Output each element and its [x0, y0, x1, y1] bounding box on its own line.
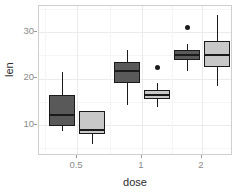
boxplot-series-layer [39, 6, 231, 154]
x-tick-label-0-5: 0.5 [56, 159, 96, 170]
median-line [204, 54, 230, 56]
x-tick-mark-0-5 [76, 155, 77, 158]
x-tick-mark-2 [201, 155, 202, 158]
boxplot-figure: len 30 20 10 0.5 1 2 dose [0, 0, 244, 194]
y-tick-label-10-wrap: 10 [12, 119, 34, 129]
y-tick-mark-20 [34, 77, 37, 78]
y-tick-label-30-wrap: 30 [12, 26, 34, 36]
y-tick-label-20-wrap: 20 [12, 72, 34, 82]
y-tick-mark-30 [34, 31, 37, 32]
y-tick-label-30: 30 [14, 26, 34, 36]
whisker-upper [217, 15, 218, 41]
x-axis-title: dose [38, 176, 232, 188]
x-tick-label-1: 1 [121, 159, 161, 170]
x-tick-label-2: 2 [181, 159, 221, 170]
y-tick-label-10: 10 [14, 119, 34, 129]
box-2-light [39, 6, 231, 154]
y-tick-mark-10 [34, 124, 37, 125]
y-tick-label-20: 20 [14, 72, 34, 82]
plot-panel [38, 5, 232, 155]
x-tick-mark-1 [141, 155, 142, 158]
whisker-lower [217, 67, 218, 86]
